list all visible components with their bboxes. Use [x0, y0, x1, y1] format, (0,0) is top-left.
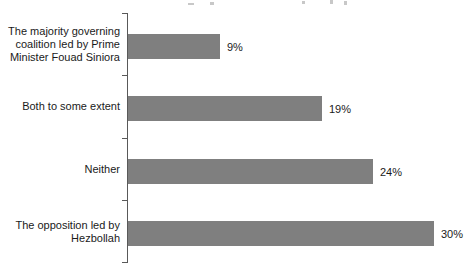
axis-tick [122, 13, 127, 14]
bar [128, 34, 220, 59]
horizontal-bar-chart: The majority governing coalition led by … [0, 0, 470, 272]
bar [128, 159, 373, 184]
cropped-title-fragment [188, 3, 194, 5]
category-label-line: coalition led by Prime [15, 38, 120, 51]
value-label: 9% [227, 34, 243, 59]
category-label-line: The majority governing [8, 25, 120, 38]
axis-tick [122, 75, 127, 76]
category-label: The majority governing coalition led by … [0, 13, 120, 76]
bar [128, 221, 434, 246]
cropped-title-fragment [210, 2, 214, 5]
category-label: Neither [0, 138, 120, 201]
axis-tick [122, 138, 127, 139]
value-label: 30% [441, 221, 463, 246]
category-label-line: The opposition led by [15, 219, 120, 232]
value-label: 19% [329, 96, 351, 121]
cropped-title-fragment [302, 1, 305, 4]
cropped-title-fragment [344, 1, 347, 5]
axis-tick [122, 200, 127, 201]
category-label-line: Neither [85, 163, 120, 176]
category-label-line: Minister Fouad Siniora [10, 51, 120, 64]
value-label: 24% [380, 159, 402, 184]
category-label-line: Both to some extent [22, 100, 120, 113]
bar [128, 96, 322, 121]
axis-tick [122, 262, 127, 263]
category-label: The opposition led by Hezbollah [0, 200, 120, 263]
category-label: Both to some extent [0, 75, 120, 138]
category-label-line: Hezbollah [71, 232, 120, 245]
cropped-title-fragment [330, 0, 333, 4]
